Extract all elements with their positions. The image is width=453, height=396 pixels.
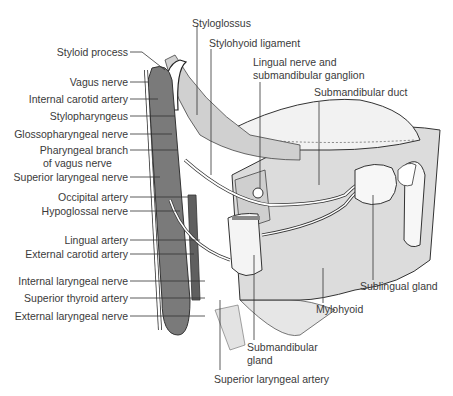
label-external-laryngeal-nerve: External laryngeal nerve	[15, 310, 128, 322]
label-vagus-nerve: Vagus nerve	[70, 76, 128, 88]
label-submandibular-gland: Submandibular	[247, 341, 318, 353]
label-hypoglossal-nerve: Hypoglossal nerve	[42, 205, 128, 217]
label-submandibular-ganglion: submandibular ganglion	[253, 69, 365, 81]
label-internal-carotid-artery: Internal carotid artery	[29, 93, 128, 105]
label-stylopharyngeus: Stylopharyngeus	[50, 110, 128, 122]
label-styloid-process: Styloid process	[57, 46, 128, 58]
label-superior-laryngeal-nerve: Superior laryngeal nerve	[14, 171, 128, 183]
label-occipital-artery: Occipital artery	[58, 191, 128, 203]
label-glossopharyngeal-nerve: Glossopharyngeal nerve	[14, 128, 128, 140]
anatomy-figure: Styloid process Vagus nerve Internal car…	[0, 0, 453, 396]
label-internal-laryngeal-nerve: Internal laryngeal nerve	[18, 275, 128, 287]
label-lingual-nerve: Lingual nerve and	[253, 56, 336, 68]
label-mylohyoid: Mylohyoid	[316, 303, 363, 315]
label-superior-laryngeal-artery: Superior laryngeal artery	[214, 373, 329, 385]
label-styloglossus: Styloglossus	[192, 17, 251, 29]
label-of-vagus-nerve: of vagus nerve	[43, 157, 112, 169]
label-superior-thyroid-artery: Superior thyroid artery	[24, 292, 128, 304]
label-sublingual-gland: Sublingual gland	[360, 280, 438, 292]
label-lingual-artery: Lingual artery	[64, 234, 128, 246]
label-gland: gland	[247, 354, 273, 366]
label-pharyngeal-branch: Pharyngeal branch	[40, 144, 128, 156]
label-stylohyoid-ligament: Stylohyoid ligament	[209, 37, 300, 49]
label-external-carotid-artery: External carotid artery	[25, 248, 128, 260]
label-submandibular-duct: Submandibular duct	[314, 86, 407, 98]
